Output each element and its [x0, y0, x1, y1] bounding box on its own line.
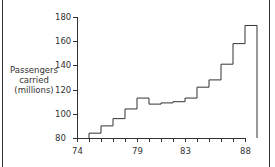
y-tick-label: 160: [55, 36, 71, 46]
y-tick-label: 100: [55, 109, 71, 119]
y-tick-label: 180: [55, 12, 71, 22]
x-tick-label: 83: [180, 146, 191, 156]
x-tick-label: 79: [132, 146, 143, 156]
y-tick-label: 120: [55, 85, 71, 95]
y-tick-label: 140: [55, 60, 71, 70]
y-tick-label: 80: [55, 133, 66, 143]
step-chart: [0, 0, 275, 167]
x-tick-label: 74: [72, 146, 83, 156]
x-tick-label: 88: [240, 146, 251, 156]
step-series: [89, 25, 257, 138]
